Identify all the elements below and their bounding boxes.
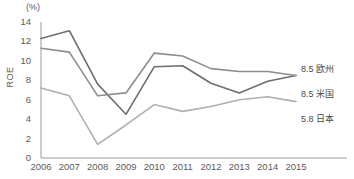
series-line-欧州 bbox=[41, 48, 296, 96]
series-label-欧州: 8.5 欧州 bbox=[301, 62, 334, 75]
roe-line-chart: (%) ROE 02468101214 20062007200820092010… bbox=[0, 0, 354, 179]
series-line-米国 bbox=[41, 31, 296, 115]
data-series-group bbox=[41, 31, 296, 145]
series-line-日本 bbox=[41, 88, 296, 144]
series-label-米国: 8.5 米国 bbox=[301, 87, 334, 100]
series-label-日本: 5.8 日本 bbox=[301, 112, 334, 125]
